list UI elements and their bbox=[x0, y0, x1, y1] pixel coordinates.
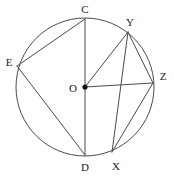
point-label-e: E bbox=[6, 57, 13, 68]
point-label-x: X bbox=[112, 161, 120, 172]
point-label-d: D bbox=[81, 162, 89, 173]
circle-geometry-diagram: OCYEZDX bbox=[0, 0, 174, 176]
point-label-o: O bbox=[69, 83, 77, 94]
point-label-y: Y bbox=[126, 17, 134, 28]
chord-Y-Z bbox=[128, 32, 153, 83]
center-point-dot bbox=[82, 84, 87, 89]
chord-E-C bbox=[17, 19, 85, 66]
point-label-z: Z bbox=[160, 71, 167, 82]
point-label-c: C bbox=[81, 4, 88, 15]
geometry-canvas bbox=[0, 0, 174, 176]
radius-O-Z bbox=[85, 83, 153, 87]
chord-E-D bbox=[17, 66, 85, 155]
